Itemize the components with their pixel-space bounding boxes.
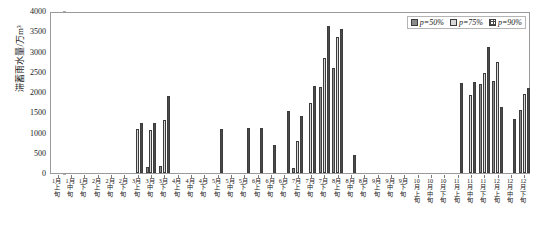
bar-group [118, 13, 131, 173]
bar-group [264, 13, 277, 173]
bar-group [424, 13, 437, 173]
bar-group [371, 13, 384, 173]
bar [332, 68, 335, 173]
x-tick-label: 3月下旬 [158, 178, 168, 197]
x-axis-tick-labels: 1月上旬1月中旬1月下旬2月上旬2月中旬2月下旬3月上旬3月中旬3月下旬4月上旬… [50, 178, 530, 230]
x-tick-label: 11月中旬 [465, 178, 475, 204]
bar [167, 96, 170, 173]
y-tick-label: 1500 [30, 109, 46, 117]
bar-group [224, 13, 237, 173]
bar [292, 168, 295, 173]
y-tick-label: 1000 [30, 130, 46, 138]
x-tick-label: 2月下旬 [118, 178, 128, 197]
x-tick-label: 12月上旬 [492, 178, 502, 204]
bar [313, 86, 316, 173]
bar [163, 120, 166, 173]
bar [353, 155, 356, 173]
bar [300, 116, 303, 173]
bar [336, 37, 339, 173]
bar-group [504, 13, 517, 173]
bar-group [171, 13, 184, 173]
bar-group [344, 13, 357, 173]
bar [523, 94, 526, 173]
legend-item-p50: p=50% [411, 18, 444, 27]
x-tick-label: 11月上旬 [452, 178, 462, 204]
bar-group [451, 13, 464, 173]
plot-area: p=50% p=75% p=90% [50, 12, 530, 174]
x-tick-label: 1月下旬 [78, 178, 88, 197]
bar [140, 123, 143, 173]
bar [309, 103, 312, 173]
x-tick-label: 10月中旬 [425, 178, 435, 204]
x-tick-label: 7月下旬 [318, 178, 328, 197]
bar-group [331, 13, 344, 173]
bar [146, 167, 149, 173]
bar [519, 110, 522, 173]
bar-group [318, 13, 331, 173]
y-tick-label: 500 [34, 150, 46, 158]
x-tick-label: 7月上旬 [292, 178, 302, 197]
legend-item-p90: p=90% [489, 18, 522, 27]
bar [479, 84, 482, 173]
x-tick-label: 12月中旬 [505, 178, 515, 204]
legend-swatch-p50-icon [411, 19, 418, 26]
bar [136, 129, 139, 173]
y-axis-tick-labels: 05001000150020002500300035004000 [16, 12, 46, 174]
bar [273, 145, 276, 173]
x-tick-label: 12月下旬 [518, 178, 528, 204]
bar-group [251, 13, 264, 173]
bar [496, 62, 499, 173]
bar-group [238, 13, 251, 173]
x-tick-label: 11月下旬 [478, 178, 488, 204]
bar [340, 29, 343, 173]
bar-group [518, 13, 531, 173]
bar-group [438, 13, 451, 173]
y-tick-label: 2000 [30, 89, 46, 97]
legend-label-p75: p=75% [459, 18, 483, 27]
x-tick-label: 10月上旬 [412, 178, 422, 204]
bar-group [131, 13, 144, 173]
bar-group [304, 13, 317, 173]
bar [319, 87, 322, 173]
bar-group [464, 13, 477, 173]
legend-label-p50: p=50% [420, 18, 444, 27]
bar [296, 141, 299, 173]
bar-group [158, 13, 171, 173]
bar [220, 129, 223, 173]
bar [153, 123, 156, 173]
bar [159, 166, 162, 173]
legend-item-p75: p=75% [450, 18, 483, 27]
bar [323, 58, 326, 173]
y-tick-label: 2500 [30, 69, 46, 77]
x-tick-label: 5月中旬 [225, 178, 235, 197]
x-tick-label: 4月中旬 [185, 178, 195, 197]
x-tick-label: 5月上旬 [212, 178, 222, 197]
bar-group [91, 13, 104, 173]
bar-group [478, 13, 491, 173]
bar [500, 107, 503, 173]
bar [513, 119, 516, 173]
bar [327, 26, 330, 173]
bar-chart-figure: 滞蓄雨水量/万m³ 050010001500200025003000350040… [0, 0, 538, 233]
y-tick-label: 3500 [30, 28, 46, 36]
bar [483, 73, 486, 173]
bar-group [278, 13, 291, 173]
y-tick-label: 3000 [30, 49, 46, 57]
bar-group [144, 13, 157, 173]
y-tick-label: 4000 [30, 8, 46, 16]
bar-group [184, 13, 197, 173]
x-tick-label: 3月中旬 [145, 178, 155, 197]
bar [527, 88, 530, 173]
bar [460, 83, 463, 173]
x-tick-label: 6月下旬 [278, 178, 288, 197]
y-tick-label: 0 [42, 170, 46, 178]
chart-legend: p=50% p=75% p=90% [407, 16, 526, 29]
x-tick-label: 10月下旬 [438, 178, 448, 204]
bar [247, 128, 250, 173]
x-tick-label: 6月上旬 [252, 178, 262, 197]
x-tick-label: 8月下旬 [358, 178, 368, 197]
x-tick-label: 4月上旬 [172, 178, 182, 197]
bar [469, 95, 472, 173]
legend-swatch-p90-icon [489, 19, 496, 26]
x-tick-label: 9月中旬 [385, 178, 395, 197]
